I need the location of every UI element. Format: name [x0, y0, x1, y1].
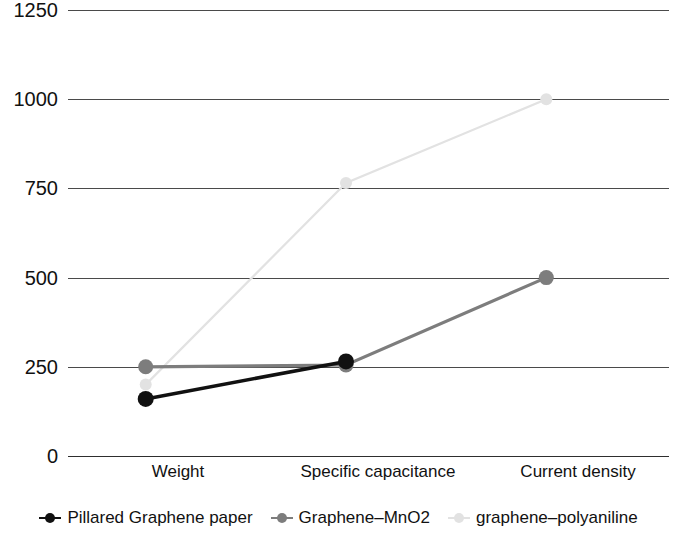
plot-area [68, 10, 669, 456]
x-axis-tick-current-density: Current density [520, 461, 635, 483]
y-axis-tick-1000: 1000 [2, 89, 58, 109]
line-chart: 1250 1000 750 500 250 0 [0, 0, 677, 541]
y-axis-tick-500: 500 [2, 268, 58, 288]
y-axis-tick-0: 0 [2, 446, 58, 466]
gridline-750 [68, 188, 669, 189]
legend-label: graphene–polyaniline [476, 508, 638, 528]
y-axis-tick-750: 750 [2, 178, 58, 198]
gridline-1250 [68, 10, 669, 11]
gridline-250 [68, 367, 669, 368]
y-axis: 1250 1000 750 500 250 0 [0, 10, 58, 456]
y-axis-tick-1250: 1250 [2, 0, 58, 20]
x-axis-tick-weight: Weight [152, 461, 205, 483]
legend-item-graphene-mno2[interactable]: Graphene–MnO2 [271, 508, 430, 528]
x-axis-tick-specific-capacitance: Specific capacitance [301, 461, 456, 483]
legend-item-pillared-graphene-paper[interactable]: Pillared Graphene paper [39, 508, 252, 528]
gridline-500 [68, 278, 669, 279]
legend-label: Graphene–MnO2 [299, 508, 430, 528]
chart-legend: Pillared Graphene paper Graphene–MnO2 gr… [0, 503, 677, 533]
legend-item-graphene-polyaniline[interactable]: graphene–polyaniline [448, 508, 638, 528]
gridline-1000 [68, 99, 669, 100]
legend-marker-icon [39, 511, 61, 525]
legend-marker-icon [448, 511, 470, 525]
gridline-0 [68, 456, 669, 457]
legend-marker-icon [271, 511, 293, 525]
y-axis-tick-250: 250 [2, 357, 58, 377]
legend-label: Pillared Graphene paper [67, 508, 252, 528]
x-axis: Weight Specific capacitance Current dens… [68, 461, 669, 489]
